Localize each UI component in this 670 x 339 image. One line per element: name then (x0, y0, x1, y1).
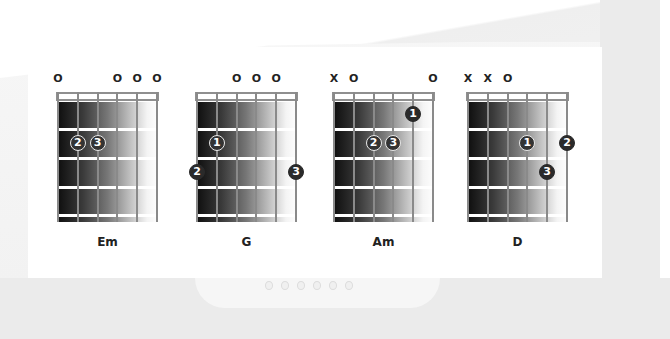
fret-line (58, 157, 157, 160)
fret-line (334, 128, 433, 131)
nut (195, 92, 298, 101)
fret-line (58, 186, 157, 189)
muted-string-marker: X (327, 72, 341, 86)
fretboard: 123 (468, 92, 567, 222)
muted-string-marker: X (481, 72, 495, 86)
string-line (546, 92, 548, 222)
string-line (116, 92, 118, 222)
string-line (353, 92, 355, 222)
fret-line (468, 214, 567, 217)
open-string-marker: O (347, 72, 361, 86)
bridge-pin-icon (329, 281, 337, 290)
string-line (136, 92, 138, 222)
string-line (467, 92, 469, 222)
fret-line (197, 186, 296, 189)
finger-position-2: 2 (366, 135, 382, 151)
string-line (566, 92, 568, 222)
string-line (275, 92, 277, 222)
fret-line (334, 214, 433, 217)
string-line (526, 92, 528, 222)
string-line (77, 92, 79, 222)
string-line (57, 92, 59, 222)
chord-name-label: Em (78, 235, 138, 249)
nut (466, 92, 569, 101)
string-line (156, 92, 158, 222)
muted-string-marker: X (461, 72, 475, 86)
fret-line (334, 186, 433, 189)
finger-position-3: 3 (90, 135, 106, 151)
string-line (432, 92, 434, 222)
nut (56, 92, 159, 101)
fretboard: 123 (197, 92, 296, 222)
bridge-pin-icon (313, 281, 321, 290)
open-string-marker: O (110, 72, 124, 86)
string-line (507, 92, 509, 222)
string-line (196, 92, 198, 222)
bridge-pin-icon (281, 281, 289, 290)
string-line (295, 92, 297, 222)
string-line (236, 92, 238, 222)
string-line (333, 92, 335, 222)
open-string-marker: O (150, 72, 164, 86)
string-line (216, 92, 218, 222)
fret-line (334, 157, 433, 160)
fret-line (58, 214, 157, 217)
open-string-marker: O (269, 72, 283, 86)
open-string-marker: O (249, 72, 263, 86)
open-string-marker: O (230, 72, 244, 86)
string-line (97, 92, 99, 222)
fret-line (468, 128, 567, 131)
string-line (487, 92, 489, 222)
open-string-marker: O (501, 72, 515, 86)
fret-line (468, 186, 567, 189)
finger-position-3: 3 (288, 164, 304, 180)
fret-line (197, 157, 296, 160)
finger-position-2: 2 (559, 135, 575, 151)
fret-line (58, 128, 157, 131)
open-string-marker: O (130, 72, 144, 86)
fret-line (197, 128, 296, 131)
open-string-marker: O (426, 72, 440, 86)
open-string-marker: O (51, 72, 65, 86)
finger-position-2: 2 (189, 164, 205, 180)
fretboard: 23 (58, 92, 157, 222)
bridge-pin-icon (297, 281, 305, 290)
fretboard: 123 (334, 92, 433, 222)
fret-line (468, 157, 567, 160)
string-line (373, 92, 375, 222)
fretboard-shading (468, 102, 567, 222)
string-line (255, 92, 257, 222)
string-line (392, 92, 394, 222)
finger-position-2: 2 (70, 135, 86, 151)
fretboard-shading (58, 102, 157, 222)
bridge-pin-icon (265, 281, 273, 290)
nut (332, 92, 435, 101)
chord-name-label: G (217, 235, 277, 249)
chord-name-label: D (488, 235, 548, 249)
bridge-pins (265, 281, 353, 290)
finger-position-1: 1 (209, 135, 225, 151)
fret-line (197, 214, 296, 217)
fretboard-shading (197, 102, 296, 222)
chord-name-label: Am (354, 235, 414, 249)
bridge-pin-icon (345, 281, 353, 290)
